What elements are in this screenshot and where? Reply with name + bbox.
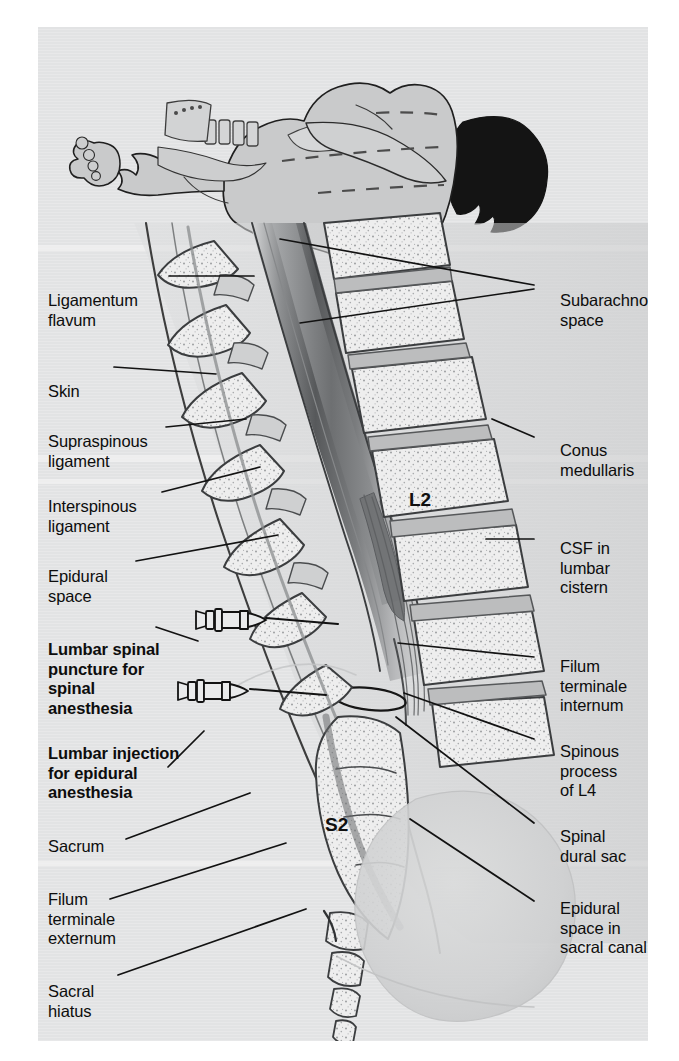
- epidural-needle-hub: [178, 680, 248, 702]
- vertebral-body: [432, 697, 554, 767]
- coccygeal-segment: [333, 1020, 356, 1041]
- vertebral-level-s2: S2: [325, 814, 348, 836]
- back-vertebrae-marks: [205, 120, 258, 146]
- lumbar-anesthesia-figure: Ligamentum flavum Skin Supraspinous liga…: [0, 0, 679, 1061]
- sagittal-section-group: [110, 213, 648, 1041]
- bladder-shadow: [355, 791, 575, 1021]
- leader-sacrum: [126, 793, 250, 839]
- vertebral-body: [336, 281, 464, 353]
- vertebral-body: [394, 525, 528, 601]
- leader-spinal-needle: [156, 627, 198, 641]
- coccygeal-segment: [330, 988, 360, 1017]
- illustration-plate: Ligamentum flavum Skin Supraspinous liga…: [38, 27, 648, 1041]
- anatomy-drawing: [38, 27, 648, 1041]
- vertebral-body: [414, 611, 544, 685]
- leader-filum-externum: [110, 843, 286, 899]
- leader-sacral-hiatus: [118, 909, 306, 975]
- patient-hair: [447, 117, 548, 233]
- vertebral-level-l2: L2: [409, 489, 431, 511]
- leader-epidural-needle: [168, 731, 204, 767]
- coccygeal-segment: [328, 952, 364, 986]
- sacral-triangle-mark: [165, 100, 211, 141]
- vertebral-body: [352, 357, 486, 433]
